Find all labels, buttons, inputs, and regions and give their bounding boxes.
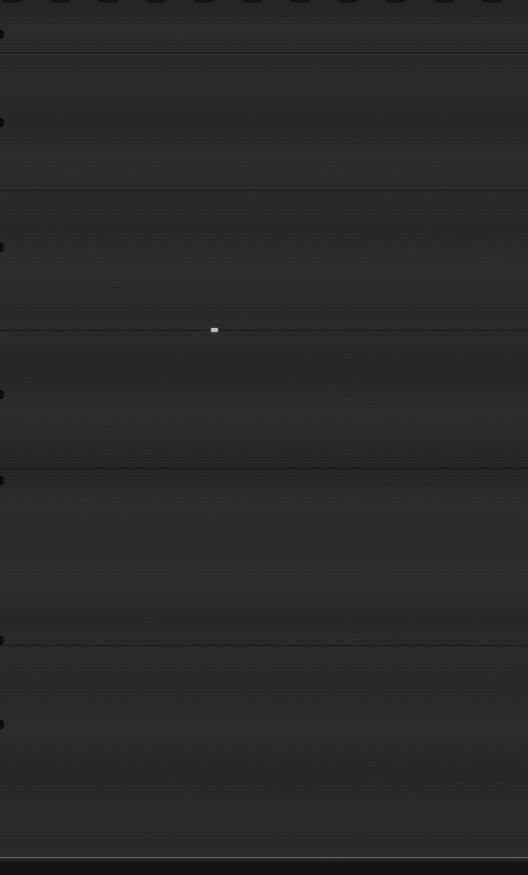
bottom-dark-strip xyxy=(0,862,528,875)
divider-line-2 xyxy=(0,190,528,191)
divider-line-3 xyxy=(0,330,528,331)
bottom-rule-line xyxy=(0,857,528,858)
edge-notch xyxy=(0,476,4,485)
divider-line-4 xyxy=(0,468,528,469)
edge-notch xyxy=(0,390,4,399)
screen-background xyxy=(0,0,528,875)
divider-line-1 xyxy=(0,52,528,53)
cursor-mark[interactable] xyxy=(211,328,218,332)
edge-notch xyxy=(0,30,4,39)
edge-notch xyxy=(0,243,4,252)
edge-notch xyxy=(0,720,4,729)
edge-notch xyxy=(0,118,4,127)
divider-line-5 xyxy=(0,645,528,646)
screen-canvas[interactable] xyxy=(0,0,528,875)
edge-notch xyxy=(0,636,4,645)
